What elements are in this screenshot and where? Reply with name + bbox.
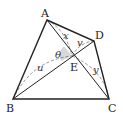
label-d: D — [95, 29, 104, 42]
label-e: E — [70, 61, 78, 74]
label-v: v — [77, 37, 83, 48]
label-c: C — [108, 102, 116, 115]
label-theta: θ — [55, 49, 61, 60]
label-b: B — [6, 102, 14, 115]
label-u: u — [37, 62, 43, 73]
label-y: y — [92, 64, 99, 75]
label-x: x — [63, 30, 69, 41]
label-a: A — [40, 7, 50, 20]
quadrilateral-diagram: A D B C E x v u y θ — [0, 0, 123, 126]
